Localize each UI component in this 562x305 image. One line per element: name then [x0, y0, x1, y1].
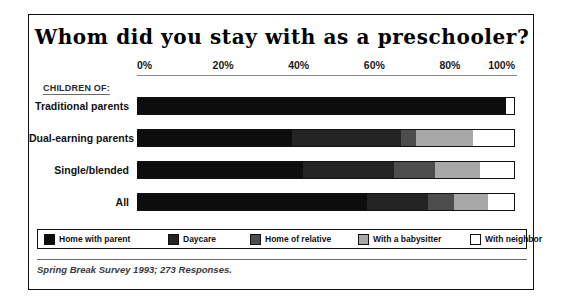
bar-segment — [435, 162, 480, 178]
bar-segment — [506, 98, 514, 114]
bar-segment — [488, 194, 514, 210]
footnote-divider — [37, 259, 527, 260]
bar-row-label: All — [29, 193, 129, 211]
bar-row: Traditional parents — [29, 97, 535, 115]
bar-segment — [394, 162, 435, 178]
legend-item: With neighbor — [470, 230, 542, 248]
bar-row-label: Traditional parents — [29, 97, 129, 115]
legend-label: Home with parent — [59, 234, 130, 244]
legend-label: Daycare — [183, 234, 216, 244]
bar-row: Dual-earning parents — [29, 129, 535, 147]
x-axis-tick-label: 80% — [439, 59, 460, 71]
x-axis-tick-label: 20% — [213, 59, 234, 71]
legend-swatch — [470, 234, 481, 245]
bar-segment — [292, 130, 401, 146]
bar-segment — [480, 162, 514, 178]
chart-title: Whom did you stay with as a preschooler? — [29, 25, 535, 49]
x-axis-tick-label: 40% — [288, 59, 309, 71]
bar-segment — [454, 194, 488, 210]
legend-swatch — [44, 234, 55, 245]
bar-row: Single/blended — [29, 161, 535, 179]
x-axis-line — [137, 75, 517, 76]
x-axis-tick-labels: 0%20%40%60%80%100% — [137, 59, 515, 75]
chart-legend: Home with parentDaycareHome of relativeW… — [37, 229, 527, 249]
legend-swatch — [358, 234, 369, 245]
bar-segment — [303, 162, 393, 178]
bar-segment — [367, 194, 427, 210]
group-caption: CHILDREN OF: — [43, 83, 110, 95]
bar-segment — [416, 130, 472, 146]
bar-segment — [138, 194, 367, 210]
bar-segment — [138, 130, 292, 146]
legend-item: Home with parent — [44, 230, 130, 248]
legend-swatch — [250, 234, 261, 245]
bar-row: All — [29, 193, 535, 211]
footnote: Spring Break Survey 1993; 273 Responses. — [37, 264, 232, 275]
plot-area: Traditional parentsDual-earning parentsS… — [29, 97, 535, 223]
legend-label: With a babysitter — [373, 234, 441, 244]
legend-item: Home of relative — [250, 230, 331, 248]
bar-segment — [401, 130, 416, 146]
chart-figure: Whom did you stay with as a preschooler?… — [28, 14, 534, 290]
x-axis-tick-label: 100% — [488, 59, 515, 71]
stacked-bar — [137, 97, 515, 115]
bar-segment — [138, 162, 303, 178]
bar-segment — [473, 130, 514, 146]
stacked-bar — [137, 129, 515, 147]
legend-label: Home of relative — [265, 234, 331, 244]
stacked-bar — [137, 193, 515, 211]
legend-item: With a babysitter — [358, 230, 441, 248]
stacked-bar — [137, 161, 515, 179]
bar-row-label: Single/blended — [29, 161, 129, 179]
legend-swatch — [168, 234, 179, 245]
legend-label: With neighbor — [485, 234, 542, 244]
x-axis-tick-label: 0% — [137, 59, 152, 71]
x-axis-tick-label: 60% — [364, 59, 385, 71]
bar-segment — [428, 194, 454, 210]
bar-segment — [138, 98, 506, 114]
legend-item: Daycare — [168, 230, 216, 248]
bar-row-label: Dual-earning parents — [29, 129, 129, 147]
